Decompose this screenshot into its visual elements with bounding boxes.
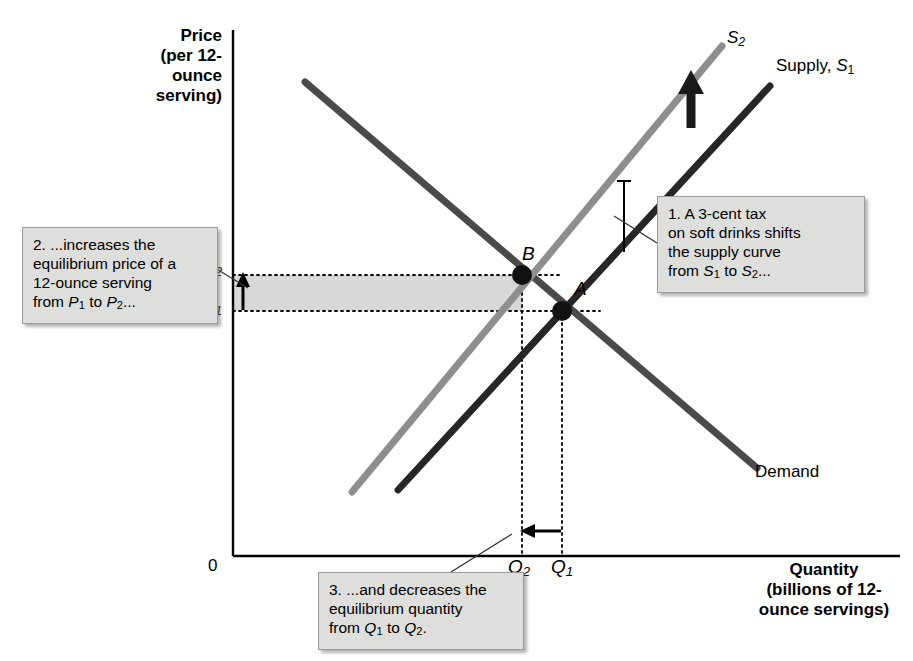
- callout-2-line-4-prefix: from: [33, 293, 68, 310]
- y-axis-label-line-2: (per 12-: [100, 46, 222, 66]
- equilibrium-label-a: A: [574, 278, 587, 300]
- y-axis-label-line-3: ounce: [100, 66, 222, 86]
- curve-label-demand: Demand: [755, 462, 819, 482]
- quantity-label-q1-symbol: Q: [551, 556, 566, 577]
- callout-2-line-3: 12-ounce serving: [33, 273, 208, 292]
- y-axis-label-line-1: Price: [100, 26, 222, 46]
- callout-3-q1: Q: [364, 619, 376, 636]
- callout-2-line-4-mid: to: [85, 293, 107, 310]
- curve-label-s2-subscript: 2: [738, 35, 745, 49]
- y-axis-label: Price (per 12- ounce serving): [100, 26, 222, 106]
- callout-2-line-1: 2. ...increases the: [33, 235, 208, 254]
- callout-1-line-3: the supply curve: [668, 242, 855, 261]
- quantity-label-q1: Q1: [551, 556, 573, 579]
- quantity-decrease-arrow: [520, 524, 561, 538]
- callout-3-q2: Q: [404, 619, 416, 636]
- callout-1-s1: S: [703, 262, 713, 279]
- x-axis-label-line-1: Quantity: [738, 560, 910, 580]
- curve-label-supply-symbol: S: [836, 56, 847, 75]
- callout-tax-shift: 1. A 3-cent tax on soft drinks shifts th…: [657, 196, 865, 293]
- callout-price-increase: 2. ...increases the equilibrium price of…: [22, 227, 218, 324]
- equilibrium-point-A: [552, 301, 572, 321]
- callout-3-line-3-prefix: from: [329, 619, 364, 636]
- origin-label: 0: [208, 556, 217, 576]
- callout-quantity-decrease: 3. ...and decreases the equilibrium quan…: [318, 572, 524, 650]
- curve-label-supply-prefix: Supply,: [776, 56, 836, 75]
- callout-2-p1: P: [68, 293, 78, 310]
- callout-2-p2: P: [106, 293, 116, 310]
- callout-3-line-3-mid: to: [383, 619, 405, 636]
- callout-2-line-4: from P1 to P2...: [33, 292, 208, 315]
- callout-3-line-1: 3. ...and decreases the: [329, 580, 514, 599]
- callout-1-line-2: on soft drinks shifts: [668, 223, 855, 242]
- callout-2-line-4-suffix: ...: [123, 293, 136, 310]
- quantity-label-q1-subscript: 1: [566, 564, 573, 579]
- callout-1-s2: S: [741, 262, 751, 279]
- callout-3-line-2: equilibrium quantity: [329, 599, 514, 618]
- equilibrium-point-B: [512, 265, 532, 285]
- curve-label-supply-subscript: 1: [848, 63, 855, 77]
- callout-1-line-4-mid: to: [720, 262, 742, 279]
- callout-3-leader: [451, 534, 512, 572]
- curve-label-s2: S2: [727, 28, 745, 49]
- x-axis-label: Quantity (billions of 12- ounce servings…: [738, 560, 910, 620]
- callout-1-line-4-suffix: ...: [758, 262, 771, 279]
- price-increase-shaded-band: [233, 275, 522, 311]
- callout-3-line-3-suffix: .: [422, 619, 426, 636]
- callout-1-line-1: 1. A 3-cent tax: [668, 204, 855, 223]
- y-axis-label-line-4: serving): [100, 86, 222, 106]
- curve-label-supply-s1: Supply, S1: [776, 56, 854, 77]
- callout-3-line-3: from Q1 to Q2.: [329, 618, 514, 641]
- callout-2-line-2: equilibrium price of a: [33, 254, 208, 273]
- x-axis-label-line-2: (billions of 12-: [738, 580, 910, 600]
- equilibrium-label-b: B: [522, 243, 535, 265]
- curve-label-s2-symbol: S: [727, 28, 738, 47]
- x-axis-label-line-3: ounce servings): [738, 600, 910, 620]
- callout-1-line-4-prefix: from: [668, 262, 703, 279]
- callout-1-line-4: from S1 to S2...: [668, 261, 855, 284]
